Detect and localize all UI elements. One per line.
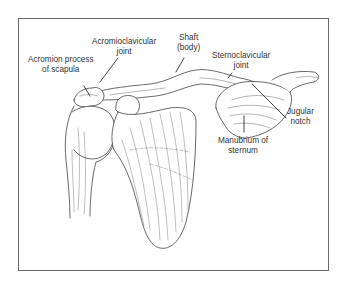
label-line: of scapula (28, 65, 94, 75)
label-line: notch (287, 117, 314, 127)
label-line: Acromioclavicular (92, 37, 156, 47)
label-manubrium-of-sternum: Manubrium of sternum (218, 136, 268, 156)
label-line: Acromion process (28, 55, 94, 65)
label-line: Shaft (177, 33, 200, 43)
label-line: Jugular (287, 107, 314, 117)
label-acromioclavicular-joint: Acromioclavicular joint (92, 37, 156, 57)
manubrium-bone (216, 81, 292, 138)
label-line: Sternoclavicular (212, 51, 270, 61)
label-shaft-body: Shaft (body) (177, 33, 200, 53)
label-line: sternum (218, 146, 268, 156)
label-line: (body) (177, 43, 200, 53)
shoulder-anatomy-illustration (0, 0, 347, 284)
acromion-bone (74, 87, 104, 106)
label-sternoclavicular-joint: Sternoclavicular joint (212, 51, 270, 71)
scapula-bone (112, 108, 196, 249)
label-acromion-process: Acromion process of scapula (28, 55, 94, 75)
label-line: joint (92, 47, 156, 57)
label-line: Manubrium of (218, 136, 268, 146)
label-jugular-notch: Jugular notch (287, 107, 314, 127)
label-line: joint (212, 61, 270, 71)
